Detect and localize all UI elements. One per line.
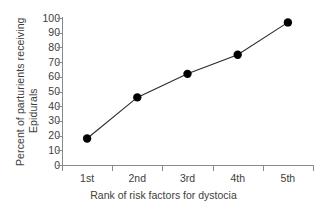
data-point-marker (234, 51, 242, 59)
x-axis-tick-label: 4th (230, 172, 245, 184)
y-axis-tick-mark (57, 92, 62, 93)
series-markers (83, 18, 292, 143)
x-axis-line (62, 165, 314, 166)
chart-figure: Percent of parturients receiving Epidura… (0, 0, 327, 209)
y-axis-tick-mark (57, 47, 62, 48)
x-axis-tick-mark (313, 166, 314, 171)
y-axis-line (62, 17, 63, 166)
y-axis-tick-mark (57, 121, 62, 122)
y-axis-tick-mark (57, 62, 62, 63)
y-axis-tick-mark (57, 106, 62, 107)
x-axis-tick-mark (213, 166, 214, 171)
data-point-marker (183, 70, 191, 78)
y-axis-tick-labels: 0102030405060708090100 (36, 11, 60, 169)
data-point-marker (284, 18, 292, 26)
x-axis-tick-label: 5th (281, 172, 296, 184)
y-axis-tick-mark (57, 77, 62, 78)
y-axis-title-line-1: Percent of parturients receiving (14, 17, 26, 166)
x-axis-tick-mark (112, 166, 113, 171)
x-axis-tick-label: 3rd (180, 172, 195, 184)
x-axis-title: Rank of risk factors for dystocia (0, 189, 327, 201)
series-line (87, 22, 288, 138)
y-axis-tick-mark (57, 150, 62, 151)
y-axis-tick-mark (57, 33, 62, 34)
data-point-marker (133, 93, 141, 101)
x-axis-tick-mark (62, 166, 63, 171)
x-axis-tick-mark (162, 166, 163, 171)
x-axis-tick-label: 2nd (129, 172, 147, 184)
y-axis-tick-mark (57, 18, 62, 19)
y-axis-tick-mark (57, 136, 62, 137)
data-point-marker (83, 134, 91, 142)
x-axis-tick-label: 1st (80, 172, 94, 184)
x-axis-tick-mark (263, 166, 264, 171)
